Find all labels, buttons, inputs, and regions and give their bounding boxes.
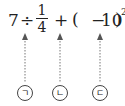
label-digeut: ㄷ [92,85,108,101]
arrow-2-icon [57,33,63,82]
label-nieun: ㄴ [52,85,68,101]
arrow-3-icon [97,33,103,82]
arrow-1-icon [22,33,28,82]
label-giyeok: ㄱ [17,85,33,101]
